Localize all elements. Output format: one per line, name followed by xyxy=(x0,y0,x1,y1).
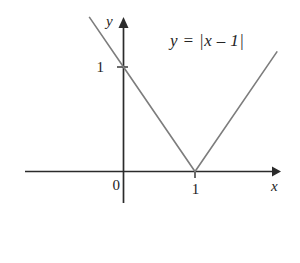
y-axis-name-label: y xyxy=(106,14,113,29)
absolute-value-graph-figure: 1 0 1 y x y = |x – 1| xyxy=(0,0,300,263)
origin-label: 0 xyxy=(104,178,120,193)
plot-canvas xyxy=(0,0,300,263)
x-axis-arrowhead xyxy=(272,167,281,177)
x-axis-name-label: x xyxy=(271,179,278,194)
y-axis-arrowhead xyxy=(119,17,129,28)
equation-annotation: y = |x – 1| xyxy=(170,32,244,49)
y-axis-tick-label-1: 1 xyxy=(88,60,104,75)
x-axis-tick-label-1: 1 xyxy=(187,182,204,197)
